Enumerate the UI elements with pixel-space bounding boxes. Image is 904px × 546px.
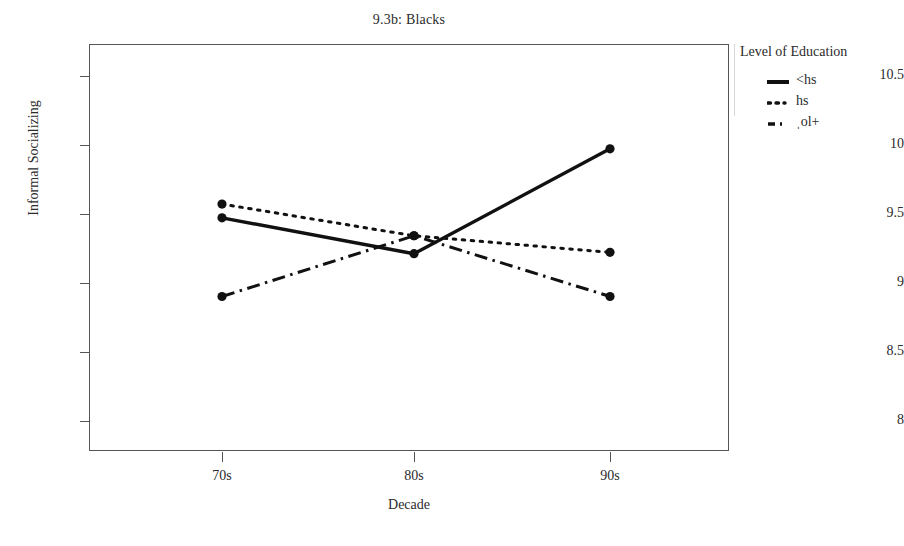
legend-item-label: hs: [796, 93, 808, 109]
data-point: [217, 199, 226, 208]
x-axis-tick-label: 80s: [374, 468, 454, 484]
y-axis-tick: [80, 421, 89, 422]
x-axis-tick-label: 90s: [570, 468, 650, 484]
x-axis-tick-label: 70s: [182, 468, 262, 484]
x-axis-title: Decade: [89, 497, 729, 513]
x-axis-tick: [222, 452, 223, 462]
y-axis-tick: [80, 283, 89, 284]
x-axis-tick: [414, 452, 415, 462]
data-point: [605, 292, 614, 301]
legend: Level of Education <hshsˌol+: [740, 44, 900, 132]
y-axis-title: Informal Socializing: [26, 48, 42, 268]
legend-item[interactable]: <hs: [767, 69, 900, 90]
x-axis-tick: [610, 452, 611, 462]
plot-area: [89, 44, 729, 451]
legend-divider: [734, 44, 735, 116]
legend-item[interactable]: hs: [767, 90, 900, 111]
y-axis-tick: [80, 76, 89, 77]
y-axis-tick-label: 9.5: [846, 205, 904, 221]
data-point: [217, 292, 226, 301]
chart-figure: 9.3b: Blacks 10.5109.598.58 Informal Soc…: [0, 0, 904, 546]
legend-item-label: ˌol+: [796, 114, 819, 130]
data-point: [217, 213, 226, 222]
dash-dot-line-icon: [767, 116, 793, 128]
legend-item-label: <hs: [796, 72, 816, 88]
solid-line-icon: [767, 74, 793, 86]
y-axis-tick-label: 8.5: [846, 343, 904, 359]
y-axis-tick-label: 10: [846, 136, 904, 152]
legend-item[interactable]: ˌol+: [767, 111, 900, 132]
y-axis-tick-label: 9: [846, 274, 904, 290]
data-point: [409, 249, 418, 258]
legend-items: <hshsˌol+: [740, 69, 900, 132]
y-axis-tick-label: 8: [846, 412, 904, 428]
series-canvas: [89, 44, 729, 451]
data-point: [409, 231, 418, 240]
y-axis-tick: [80, 352, 89, 353]
data-point: [605, 248, 614, 257]
y-axis-tick: [80, 145, 89, 146]
y-axis-tick: [80, 214, 89, 215]
chart-title: 9.3b: Blacks: [89, 12, 729, 28]
legend-title: Level of Education: [740, 44, 900, 60]
series-line-2: [222, 236, 610, 297]
dotted-line-icon: [767, 95, 793, 107]
data-point: [605, 144, 614, 153]
